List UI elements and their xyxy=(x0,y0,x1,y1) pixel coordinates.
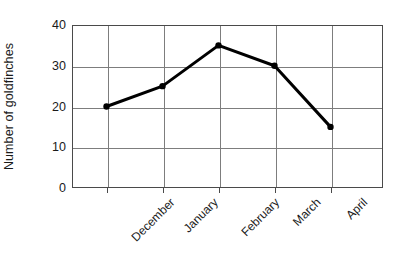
x-tick-label-april: April xyxy=(344,196,369,221)
x-tick-label-january: January xyxy=(182,196,221,235)
x-tick-label-december: December xyxy=(129,196,177,244)
x-axis-tick-labels: December January February March April xyxy=(0,0,394,254)
x-tick-label-march: March xyxy=(291,196,323,228)
x-tick-label-february: February xyxy=(239,196,281,238)
line-chart-figure: Number of goldfinches 40 30 20 10 0 Dec xyxy=(0,0,394,254)
